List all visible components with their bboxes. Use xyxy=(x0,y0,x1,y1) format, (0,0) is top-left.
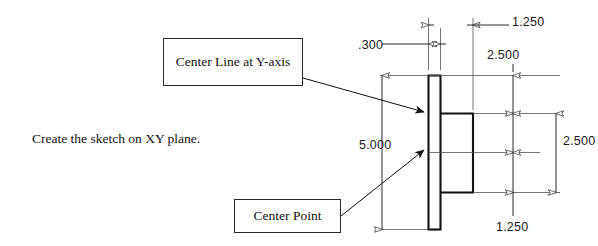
dimension-lines xyxy=(382,25,556,230)
instruction-note: Create the sketch on XY plane. xyxy=(32,130,202,147)
dimension-label-thickness: .300 xyxy=(358,38,383,52)
dimension-label-bottom-offset: 1.250 xyxy=(496,220,528,234)
drawing-canvas: Create the sketch on XY plane. Center Li… xyxy=(0,0,598,246)
leader-center-line xyxy=(303,78,424,112)
boss-profile xyxy=(441,114,474,193)
extension-lines xyxy=(380,18,560,230)
dimension-label-boss-height: 2.500 xyxy=(563,134,595,148)
dimension-label-plate-height: 5.000 xyxy=(359,138,391,152)
callout-center-line-at-y-axis[interactable]: Center Line at Y-axis xyxy=(163,38,303,86)
dimension-label-top-offset: 2.500 xyxy=(487,48,519,62)
callout-center-point[interactable]: Center Point xyxy=(234,199,341,233)
dimension-label-boss-width: 1.250 xyxy=(512,15,544,29)
